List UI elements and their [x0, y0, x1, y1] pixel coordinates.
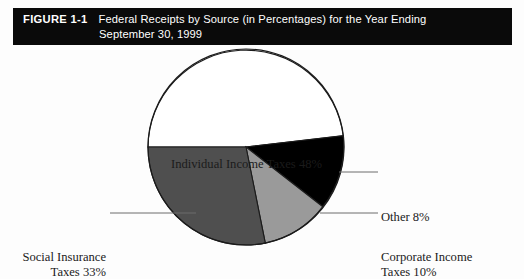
- caption-line-1: FIGURE 1-1Federal Receipts by Source (in…: [23, 12, 512, 27]
- figure-caption-bar: FIGURE 1-1Federal Receipts by Source (in…: [13, 8, 512, 45]
- pie-label-other: Other 8%: [381, 210, 430, 225]
- pie-slice-individual-income-taxes[interactable]: [148, 50, 343, 147]
- pie-label-individual-income-taxes: Individual Income Taxes 48%: [148, 157, 345, 172]
- figure-title-line-2: September 30, 1999: [23, 27, 512, 42]
- pie-chart-svg: [0, 45, 524, 254]
- pie-chart-area: Individual Income Taxes 48% Other 8% Cor…: [0, 45, 524, 254]
- pie-label-social-insurance-taxes: Social Insurance Taxes 33%: [14, 250, 106, 279]
- figure-title-line-1: Federal Receipts by Source (in Percentag…: [88, 13, 427, 25]
- pie-label-corporate-line-2: Taxes 10%: [381, 265, 436, 279]
- pie-label-corporate-line-1: Corporate Income: [381, 250, 472, 264]
- pie-label-social-line-1: Social Insurance: [22, 250, 106, 264]
- figure-number-label: FIGURE 1-1: [23, 13, 88, 25]
- pie-label-social-line-2: Taxes 33%: [51, 265, 106, 279]
- pie-label-corporate-income-taxes: Corporate Income Taxes 10%: [381, 250, 491, 279]
